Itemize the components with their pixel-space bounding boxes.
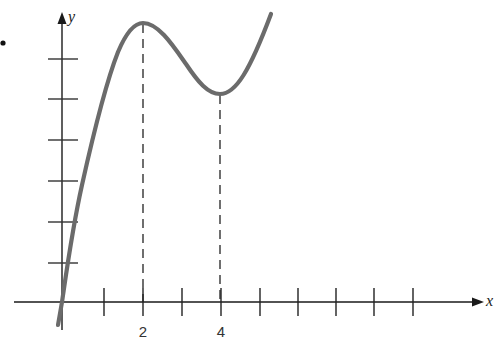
y-axis-arrow-icon bbox=[58, 12, 67, 24]
x-axis-label: x bbox=[485, 292, 493, 309]
function-curve bbox=[58, 14, 271, 325]
x-axis-arrow-icon bbox=[472, 298, 484, 307]
guide-lines bbox=[143, 24, 220, 302]
y-axis-label: y bbox=[66, 8, 76, 26]
x-tick-label-2: 2 bbox=[139, 323, 147, 340]
bullet-dot bbox=[0, 40, 5, 45]
function-graph: x 2 4 y bbox=[0, 0, 500, 347]
x-tick-label-4: 4 bbox=[217, 323, 225, 340]
x-axis: x 2 4 bbox=[14, 288, 493, 340]
